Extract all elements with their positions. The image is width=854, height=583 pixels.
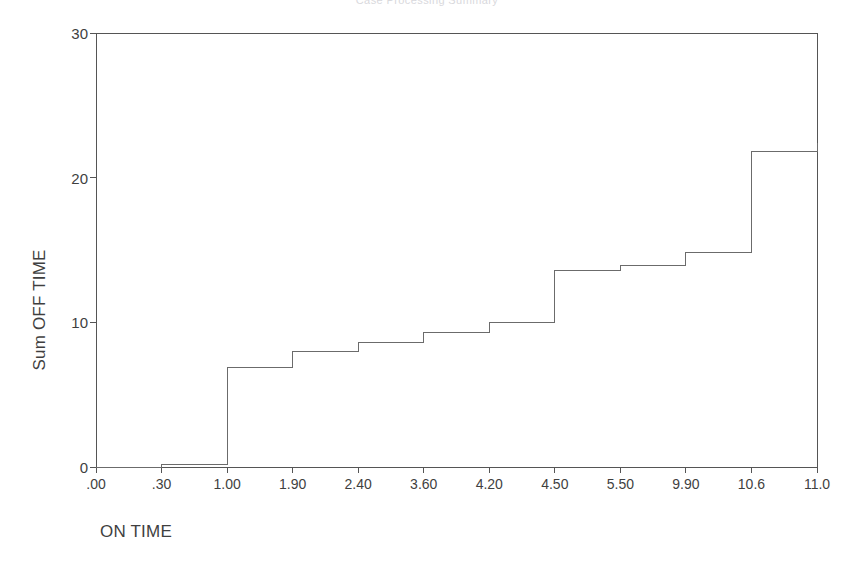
- x-tick-label: 3.60: [410, 476, 437, 492]
- x-tick-label: 9.90: [672, 476, 699, 492]
- step-chart: Case Processing Summary 0102030 .00.301.…: [0, 0, 854, 583]
- step-series-line: [96, 143, 817, 467]
- x-tick-label: 1.00: [213, 476, 240, 492]
- y-tick-label: 0: [52, 459, 88, 476]
- x-tick-label: 4.20: [476, 476, 503, 492]
- y-tick-label: 30: [52, 25, 88, 42]
- axes-group: [96, 33, 817, 467]
- x-tick-label: 10.6: [738, 476, 765, 492]
- y-tick-label: 20: [52, 169, 88, 186]
- y-tick-label: 10: [52, 314, 88, 331]
- x-tick-label: 5.50: [607, 476, 634, 492]
- x-tick-label: 2.40: [345, 476, 372, 492]
- y-axis-title: Sum OFF TIME: [30, 210, 50, 410]
- x-tick-label: .30: [152, 476, 171, 492]
- x-tick-label: 11.0: [804, 476, 830, 492]
- x-tick-label: .00: [86, 476, 105, 492]
- x-tick-label: 1.90: [279, 476, 306, 492]
- y-axis-tick-labels: 0102030: [52, 0, 88, 583]
- x-axis-title: ON TIME: [100, 522, 172, 542]
- x-tick-label: 4.50: [541, 476, 568, 492]
- plot-area: [0, 0, 854, 583]
